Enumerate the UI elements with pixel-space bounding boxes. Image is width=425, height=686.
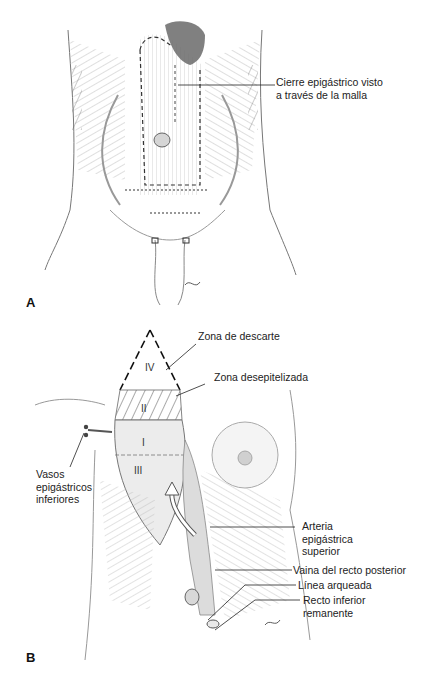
callout-line: epigástrica (302, 533, 353, 546)
callout-inferior-epigastric-vessels: Vasos epigástricos inferiores (36, 468, 92, 506)
callout-superior-epigastric-artery: Arteria epigástrica superior (302, 520, 353, 558)
panel-letter-b: B (26, 650, 35, 665)
callout-deepithelialized-zone: Zona desepitelizada (214, 371, 308, 384)
zone-ii-label: II (141, 403, 147, 414)
callout-discard-zone: Zona de descarte (198, 330, 280, 343)
callout-posterior-rectus-sheath: Vaina del recto posterior (293, 564, 406, 577)
callout-line: epigástricos (36, 481, 92, 494)
callout-line: a través de la malla (276, 89, 383, 102)
callout-line: Vasos (36, 468, 92, 481)
callout-line: Recto inferior (303, 594, 365, 607)
zone-iv-label: IV (145, 362, 154, 373)
callout-line: remanente (303, 607, 365, 620)
callout-epigastric-closure: Cierre epigástrico visto a través de la … (276, 76, 383, 101)
callout-line: inferiores (36, 493, 92, 506)
callout-arcuate-line: Línea arqueada (298, 579, 372, 592)
panel-letter-a: A (26, 295, 35, 310)
zone-iii-label: III (134, 465, 142, 476)
callout-line: Cierre epigástrico visto (276, 76, 383, 89)
callout-line: Arteria (302, 520, 353, 533)
zone-i-label: I (142, 437, 145, 448)
panel-a-drawing (45, 21, 296, 305)
callout-line: superior (302, 545, 353, 558)
callout-remaining-inferior-rectus: Recto inferior remanente (303, 594, 365, 619)
